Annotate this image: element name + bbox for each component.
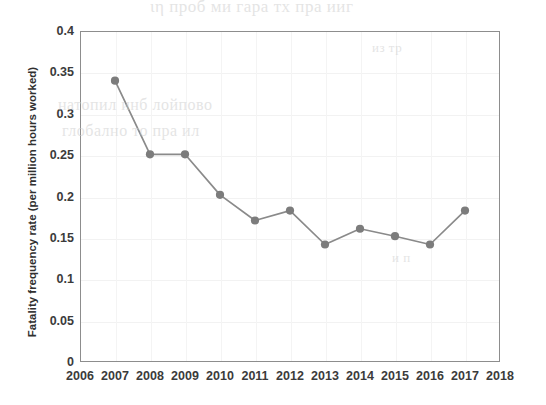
gridline-vertical: [221, 32, 222, 361]
gridline-vertical: [466, 32, 467, 361]
fatality-frequency-rate-line-chart: Fatality frequency rate (per million hou…: [0, 0, 546, 405]
y-tick-label: 0.05: [4, 314, 74, 328]
gridline-vertical: [151, 32, 152, 361]
gridline-horizontal: [81, 280, 499, 281]
gridline-horizontal: [81, 198, 499, 199]
gridline-vertical: [396, 32, 397, 361]
gridline-vertical: [256, 32, 257, 361]
gridline-horizontal: [81, 73, 499, 74]
x-tick-label: 2018: [476, 369, 524, 383]
gridline-horizontal: [81, 322, 499, 323]
gridline-horizontal: [81, 239, 499, 240]
gridline-vertical: [291, 32, 292, 361]
y-tick-label: 0.3: [4, 107, 74, 121]
gridline-vertical: [116, 32, 117, 361]
y-tick-label: 0.25: [4, 148, 74, 162]
gridline-vertical: [326, 32, 327, 361]
plot-area: [80, 31, 500, 362]
y-tick-label: 0.2: [4, 190, 74, 204]
gridline-horizontal: [81, 156, 499, 157]
gridline-horizontal: [81, 115, 499, 116]
gridline-vertical: [186, 32, 187, 361]
y-tick-label: 0.4: [4, 24, 74, 38]
y-tick-label: 0.15: [4, 231, 74, 245]
y-tick-label: 0: [4, 355, 74, 369]
gridline-vertical: [431, 32, 432, 361]
y-tick-label: 0.35: [4, 65, 74, 79]
x-axis-tick-labels: 2006200720082009201020112012201320142015…: [0, 369, 546, 393]
y-tick-label: 0.1: [4, 272, 74, 286]
y-axis-tick-labels: 00.050.10.150.20.250.30.350.4: [0, 0, 74, 405]
gridline-vertical: [361, 32, 362, 361]
